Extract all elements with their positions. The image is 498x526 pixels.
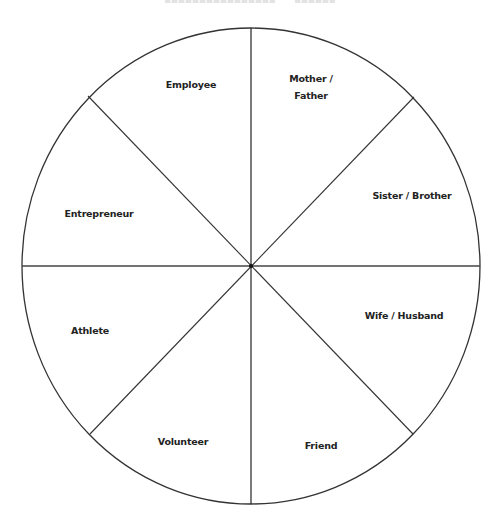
segment-label-entrepreneur: Entrepreneur [64, 205, 133, 222]
segment-label-volunteer: Volunteer [158, 433, 208, 450]
segment-label-athlete: Athlete [71, 322, 109, 339]
segment-label-mother-father-line1: Mother / [289, 70, 333, 87]
wheel-center [249, 264, 253, 268]
segment-label-mother-father: Mother / Father [289, 70, 333, 104]
segment-label-sister-brother: Sister / Brother [372, 187, 451, 204]
role-wheel [0, 0, 498, 526]
segment-label-employee: Employee [166, 76, 216, 93]
segment-label-friend: Friend [305, 437, 338, 454]
segment-label-mother-father-line2: Father [289, 87, 333, 104]
segment-label-wife-husband: Wife / Husband [365, 307, 444, 324]
